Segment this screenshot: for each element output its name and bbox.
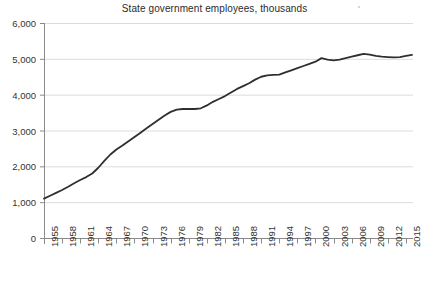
y-axis-tick-label: 0 <box>0 233 36 244</box>
data-line <box>44 54 412 199</box>
x-axis-tick-label: 1958 <box>67 226 78 247</box>
x-axis-tick-label: 1955 <box>49 226 60 247</box>
x-axis-tick-label: 1991 <box>266 226 277 247</box>
y-axis-tick-label: 6,000 <box>0 18 36 29</box>
x-axis-tick-label: 1994 <box>284 226 295 247</box>
chart-container: State government employees, thousands 01… <box>0 0 429 284</box>
x-axis-tick-label: 2009 <box>375 226 386 247</box>
y-axis-tick-label: 4,000 <box>0 89 36 100</box>
x-axis-tick-label: 2003 <box>339 226 350 247</box>
x-axis-tick-label: 1970 <box>139 226 150 247</box>
y-axis-tick-label: 3,000 <box>0 125 36 136</box>
x-axis-tick-label: 1961 <box>85 226 96 247</box>
x-axis-tick-label: 2012 <box>393 226 404 247</box>
x-axis-tick-label: 1973 <box>158 226 169 247</box>
x-axis-tick-label: 2000 <box>320 226 331 247</box>
y-axis-group <box>40 23 45 244</box>
x-axis-tick-label: 1967 <box>121 226 132 247</box>
x-axis-tick-label: 1964 <box>103 226 114 247</box>
y-axis-tick-label: 1,000 <box>0 197 36 208</box>
x-axis-tick-label: 1976 <box>176 226 187 247</box>
data-series-group <box>44 54 412 199</box>
y-axis-tick-label: 5,000 <box>0 53 36 64</box>
y-axis-tick-label: 2,000 <box>0 161 36 172</box>
x-axis-tick-label: 1988 <box>248 226 259 247</box>
x-axis-tick-label: 1982 <box>212 226 223 247</box>
x-axis-tick-label: 1997 <box>302 226 313 247</box>
x-axis-tick-label: 2006 <box>357 226 368 247</box>
x-axis-tick-label: 1979 <box>194 226 205 247</box>
x-axis-tick-label: 1985 <box>230 226 241 247</box>
x-axis-tick-label: 2015 <box>411 226 422 247</box>
